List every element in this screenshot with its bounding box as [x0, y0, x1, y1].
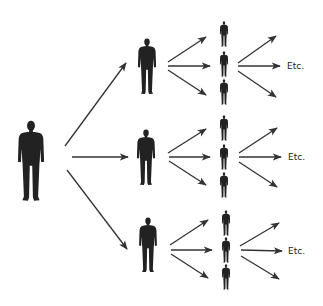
arrow-level2-0-2 [168, 70, 206, 95]
etc-label: Etc. [287, 61, 304, 71]
person-icon-level2-0-2 [220, 79, 228, 104]
person-icon-level2-1-0 [220, 115, 228, 140]
arrow-level1-2 [67, 170, 127, 249]
etc-label: Etc. [288, 152, 305, 162]
arrow-level2-2-2 [171, 254, 208, 278]
person-icon-level1-1 [137, 130, 155, 185]
arrow-level2-2-0 [170, 220, 208, 245]
arrow-level3-1-0 [239, 128, 277, 153]
person-icon-level1-0 [138, 39, 156, 94]
arrow-level2-1-2 [169, 161, 206, 185]
labels-layer: Etc.Etc.Etc. [287, 61, 305, 256]
arrow-level3-1-2 [239, 162, 277, 187]
etc-label: Etc. [288, 246, 305, 256]
person-icon-level2-0-0 [220, 21, 228, 46]
arrow-level1-0 [65, 63, 126, 146]
arrow-level3-2-2 [241, 256, 279, 279]
person-icon-level2-2-1 [222, 237, 230, 262]
person-icon-level2-1-2 [220, 172, 228, 197]
arrow-level2-0-0 [168, 37, 206, 62]
arrows-layer [65, 36, 282, 279]
arrow-level3-0-0 [238, 36, 276, 63]
arrow-level2-1-0 [168, 129, 206, 153]
person-icon-root [18, 121, 44, 201]
arrow-level3-2-1 [241, 250, 282, 251]
arrow-level3-0-2 [238, 71, 276, 97]
person-icon-level2-2-0 [222, 210, 230, 235]
person-icon-level2-2-2 [222, 264, 230, 289]
referral-tree-diagram: Etc.Etc.Etc. [0, 0, 323, 306]
person-icon-level2-0-1 [220, 51, 228, 76]
people-layer [18, 21, 230, 289]
arrow-level3-2-0 [240, 223, 279, 246]
person-icon-level2-1-1 [220, 144, 228, 169]
person-icon-level1-2 [139, 218, 157, 273]
